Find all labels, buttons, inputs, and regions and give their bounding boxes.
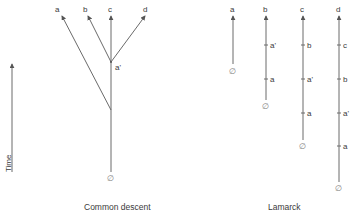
lineage-c-root: ∅ xyxy=(299,142,306,151)
branch-a xyxy=(62,16,111,110)
stage-label: a xyxy=(343,142,348,151)
stage-label: a xyxy=(270,75,275,84)
stage-label: a' xyxy=(343,109,349,118)
time-axis-label: Time xyxy=(4,154,13,172)
evolution-diagram: Time a b c d a' ∅ Common descent a ∅ b a… xyxy=(0,0,356,210)
lineage-b: b a' a ∅ xyxy=(262,5,276,111)
lineage-d-top: d xyxy=(336,5,340,14)
lineage-a-root: ∅ xyxy=(229,67,236,76)
lineage-b-top: b xyxy=(263,5,268,14)
lamarck-caption: Lamarck xyxy=(268,202,301,210)
tip-label-a: a xyxy=(55,5,60,14)
tip-label-c: c xyxy=(108,5,112,14)
branch-d xyxy=(111,16,145,62)
lineage-a: a ∅ xyxy=(229,5,236,76)
common-descent-caption: Common descent xyxy=(84,202,151,210)
stage-label: a' xyxy=(270,41,276,50)
node-a-prime xyxy=(110,61,112,63)
stage-label: a' xyxy=(307,75,313,84)
lamarck-lineages: a ∅ b a' a ∅ c b a' a ∅ d xyxy=(229,5,349,210)
lineage-d-root: ∅ xyxy=(335,184,342,193)
lineage-a-top: a xyxy=(230,5,235,14)
stage-label: c xyxy=(343,41,347,50)
common-descent-tree: a b c d a' ∅ Common descent xyxy=(55,5,151,210)
node-label: a' xyxy=(115,63,121,72)
lineage-d: d c b a' a ∅ xyxy=(335,5,349,193)
branch-b xyxy=(88,16,111,62)
time-axis: Time xyxy=(4,64,13,172)
lineage-b-root: ∅ xyxy=(262,102,269,111)
tip-label-b: b xyxy=(83,5,88,14)
stage-label: b xyxy=(307,41,312,50)
stage-label: b xyxy=(343,75,348,84)
stage-label: a xyxy=(307,109,312,118)
root-label: ∅ xyxy=(107,174,114,183)
lineage-c-top: c xyxy=(300,5,304,14)
lineage-c: c b a' a ∅ xyxy=(299,5,313,151)
tip-label-d: d xyxy=(143,5,147,14)
